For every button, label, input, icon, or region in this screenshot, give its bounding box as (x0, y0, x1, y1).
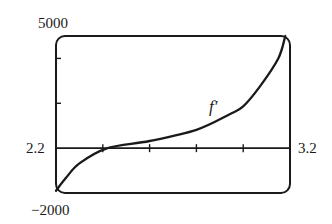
x-max-label: 3.2 (298, 140, 317, 156)
f-prime-curve (56, 36, 285, 191)
plot-frame (56, 36, 290, 193)
y-min-label: −2000 (31, 202, 69, 218)
y-max-label: 5000 (38, 15, 68, 31)
chart: 5000 −2000 2.2 3.2 f′ (0, 0, 332, 224)
curve-label: f′ (209, 97, 218, 116)
x-min-label: 2.2 (26, 140, 45, 156)
